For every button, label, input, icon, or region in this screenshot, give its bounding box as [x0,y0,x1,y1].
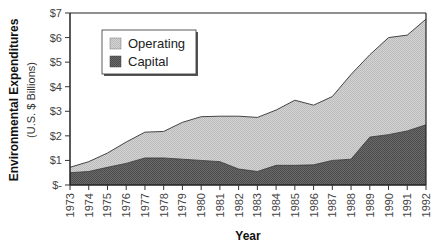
y-tick-label: $2 [50,130,62,142]
x-tick-label: 1987 [326,193,338,217]
y-ticks: $-$1$2$3$4$5$6$7 [50,7,70,191]
x-ticks: 1973197419751976197719781979198019811982… [64,185,432,217]
x-tick-label: 1984 [270,193,282,217]
x-tick-label: 1988 [345,193,357,217]
y-tick-label: $1 [50,154,62,166]
x-tick-label: 1979 [176,193,188,217]
legend-label-operating: Operating [128,36,185,51]
x-tick-label: 1983 [251,193,263,217]
y-axis-sublabel: (U.S. $ Billions) [25,62,37,138]
x-tick-label: 1976 [120,193,132,217]
x-axis-label: Year [235,229,261,243]
y-axis-title: Environmental Expenditures (U.S. $ Billi… [7,18,37,181]
x-tick-label: 1985 [289,193,301,217]
x-tick-label: 1986 [308,193,320,217]
x-tick-label: 1981 [214,193,226,217]
x-tick-label: 1991 [401,193,413,217]
y-tick-label: $3 [50,105,62,117]
y-tick-label: $6 [50,32,62,44]
x-tick-label: 1973 [64,193,76,217]
legend-label-capital: Capital [128,54,169,69]
x-tick-label: 1992 [420,193,432,217]
x-tick-label: 1975 [101,193,113,217]
x-tick-label: 1980 [195,193,207,217]
legend: Operating Capital [102,30,198,76]
x-tick-label: 1990 [383,193,395,217]
legend-swatch-operating [110,38,121,49]
y-tick-label: $- [52,179,62,191]
stacked-area-chart: Environmental Expenditures (U.S. $ Billi… [0,0,438,247]
x-tick-label: 1989 [364,193,376,217]
y-axis-label: Environmental Expenditures [7,18,21,181]
y-tick-label: $4 [50,81,62,93]
x-tick-label: 1974 [83,193,95,217]
x-tick-label: 1977 [139,193,151,217]
x-tick-label: 1978 [158,193,170,217]
y-tick-label: $7 [50,7,62,19]
y-tick-label: $5 [50,56,62,68]
legend-swatch-capital [110,56,121,67]
x-tick-label: 1982 [233,193,245,217]
